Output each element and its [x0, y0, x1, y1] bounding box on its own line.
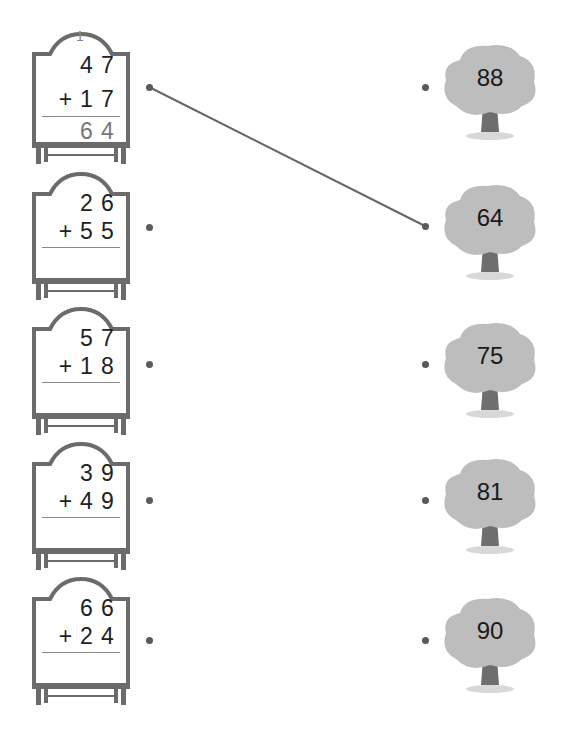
answer-tree-2[interactable]: 64	[440, 180, 540, 280]
problem-board-3: 57 +18	[30, 305, 132, 429]
bottom-ones: 8	[97, 353, 118, 380]
bottom-tens: 5	[76, 218, 97, 245]
top-tens: 5	[76, 325, 97, 352]
tree-value: 64	[440, 204, 540, 232]
answer-tree-1[interactable]: 88	[440, 40, 540, 140]
problem-dot-1[interactable]	[146, 84, 153, 91]
sum-line	[42, 382, 120, 383]
top-tens: 6	[76, 595, 97, 622]
problem-board-5: 66 +24	[30, 575, 132, 699]
operator: +	[55, 623, 76, 650]
problem-board-2: 26 +55	[30, 170, 132, 294]
sum-line	[42, 652, 120, 653]
bottom-ones: 7	[97, 86, 118, 113]
operator: +	[55, 488, 76, 515]
tree-value: 81	[440, 478, 540, 506]
sum-line	[42, 247, 120, 248]
top-tens: 2	[76, 190, 97, 217]
problem-dot-5[interactable]	[146, 637, 153, 644]
problem-board-1: 1 47 +17 64	[30, 30, 132, 154]
operator: +	[55, 218, 76, 245]
tree-dot-4[interactable]	[422, 497, 429, 504]
top-ones: 6	[97, 595, 118, 622]
bottom-tens: 2	[76, 623, 97, 650]
sum-line	[42, 116, 120, 117]
operator: +	[55, 353, 76, 380]
tree-value: 88	[440, 64, 540, 92]
bottom-tens: 1	[76, 86, 97, 113]
tree-dot-5[interactable]	[422, 637, 429, 644]
answer-tree-5[interactable]: 90	[440, 593, 540, 693]
problem-dot-4[interactable]	[146, 497, 153, 504]
problem-board-4: 39 +49	[30, 440, 132, 564]
top-ones: 9	[97, 460, 118, 487]
answer-tens: 6	[76, 118, 97, 145]
carry-digit: 1	[76, 28, 84, 44]
tree-value: 90	[440, 617, 540, 645]
bottom-tens: 4	[76, 488, 97, 515]
tree-dot-2[interactable]	[422, 223, 429, 230]
top-ones: 7	[97, 52, 118, 79]
bottom-ones: 4	[97, 623, 118, 650]
top-ones: 7	[97, 325, 118, 352]
problem-dot-3[interactable]	[146, 361, 153, 368]
top-ones: 6	[97, 190, 118, 217]
answer-tree-3[interactable]: 75	[440, 318, 540, 418]
tree-value: 75	[440, 342, 540, 370]
bottom-ones: 5	[97, 218, 118, 245]
answer-ones: 4	[97, 118, 118, 145]
answer-tree-4[interactable]: 81	[440, 454, 540, 554]
problem-dot-2[interactable]	[146, 224, 153, 231]
tree-dot-3[interactable]	[422, 361, 429, 368]
sum-line	[42, 517, 120, 518]
tree-dot-1[interactable]	[422, 84, 429, 91]
bottom-tens: 1	[76, 353, 97, 380]
operator: +	[55, 86, 76, 113]
top-tens: 4	[76, 52, 97, 79]
bottom-ones: 9	[97, 488, 118, 515]
top-tens: 3	[76, 460, 97, 487]
